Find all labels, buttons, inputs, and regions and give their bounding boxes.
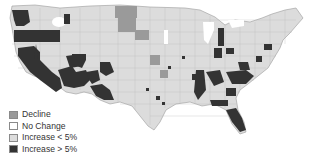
legend-label: Increase < 5%: [22, 133, 77, 142]
legend-label: No Change: [22, 122, 65, 131]
legend-label: Increase > 5%: [22, 145, 77, 154]
legend-label: Decline: [22, 110, 51, 119]
increase-gt5-swatch: [9, 145, 18, 153]
legend-item-no-change: No Change: [9, 121, 77, 133]
decline-swatch: [9, 111, 18, 119]
legend-item-increase-gt5: Increase > 5%: [9, 144, 77, 156]
increase-lt5-swatch: [9, 134, 18, 142]
legend-item-increase-lt5: Increase < 5%: [9, 132, 77, 144]
legend: Decline No Change Increase < 5% Increase…: [9, 109, 77, 155]
legend-item-decline: Decline: [9, 109, 77, 121]
no-change-swatch: [9, 122, 18, 130]
